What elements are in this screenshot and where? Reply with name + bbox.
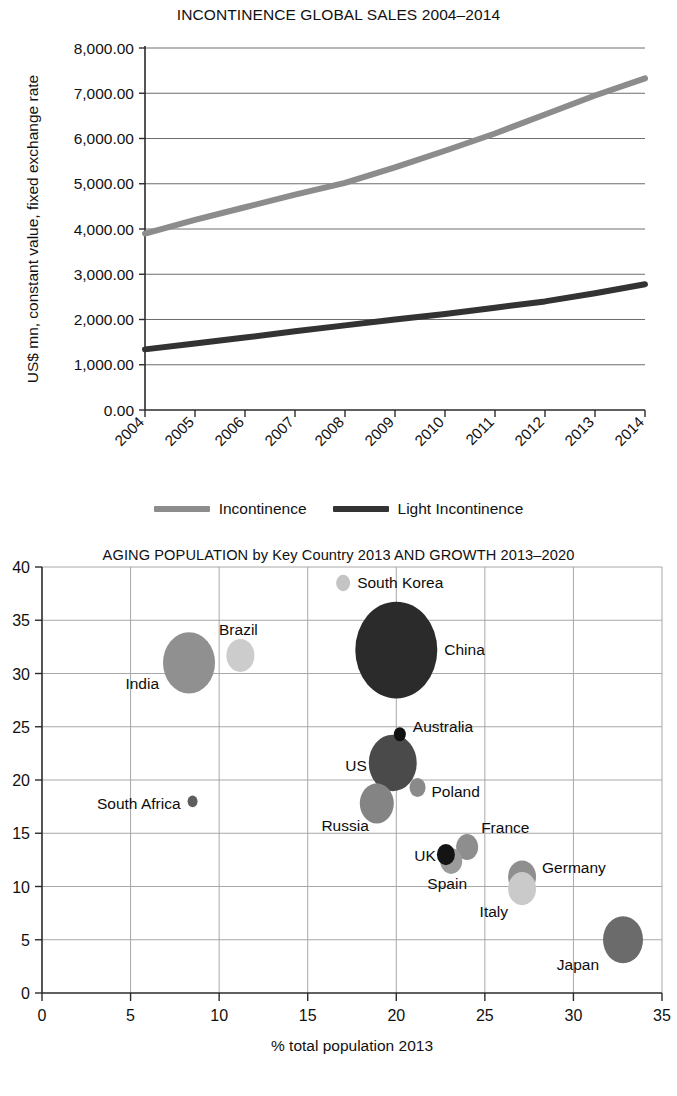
line-series-incontinence [145, 78, 645, 233]
bubble-chart-title: AGING POPULATION by Key Country 2013 AND… [0, 547, 677, 563]
legend-swatch-icon [333, 506, 389, 512]
bubble-label-china: China [444, 641, 485, 658]
line-chart-legend: IncontinenceLight Incontinence [0, 500, 677, 518]
y-tick-label: 15 [12, 825, 30, 842]
x-tick-label: 2012 [511, 413, 547, 449]
bubble-label-italy: Italy [480, 903, 509, 920]
bubble-label-south-korea: South Korea [357, 574, 444, 591]
x-tick-label: 2014 [611, 413, 647, 449]
y-tick-label: 3,000.00 [74, 266, 135, 283]
x-tick-label: 2011 [462, 413, 497, 448]
line-chart-figure: INCONTINENCE GLOBAL SALES 2004–2014 0.00… [0, 0, 677, 545]
bubble-label-south-africa: South Africa [97, 795, 181, 812]
bubble-south-korea[interactable] [336, 575, 350, 592]
bubble-uk[interactable] [437, 844, 455, 865]
y-tick-label: 0.00 [104, 402, 135, 419]
bubble-label-spain: Spain [427, 875, 467, 892]
y-tick-label: 35 [12, 612, 30, 629]
bubble-label-us: US [345, 757, 367, 774]
y-tick-label: 4,000.00 [74, 221, 135, 238]
x-tick-label: 25 [476, 1007, 494, 1024]
y-tick-label: 2,000.00 [74, 311, 135, 328]
bubble-japan[interactable] [603, 916, 643, 963]
legend-swatch-icon [154, 506, 210, 512]
y-tick-label: 20 [12, 772, 30, 789]
bubble-label-russia: Russia [321, 817, 369, 834]
bubble-label-france: France [481, 819, 529, 836]
x-tick-label: 2013 [561, 413, 597, 449]
y-tick-label: 8,000.00 [74, 40, 135, 57]
y-tick-label: 0 [21, 985, 30, 1002]
legend-label: Incontinence [219, 500, 307, 518]
bubble-chart-figure: AGING POPULATION by Key Country 2013 AND… [0, 545, 677, 1096]
bubble-china[interactable] [355, 602, 437, 699]
x-tick-label: 30 [565, 1007, 583, 1024]
y-tick-label: 10 [12, 879, 30, 896]
y-tick-label: 5 [21, 932, 30, 949]
bubble-label-australia: Australia [413, 718, 474, 735]
x-tick-label: 2007 [261, 413, 297, 449]
x-tick-label: 5 [126, 1007, 135, 1024]
bubble-brazil[interactable] [226, 639, 254, 672]
line-chart-plot: 0.001,000.002,000.003,000.004,000.005,00… [0, 0, 677, 490]
line-series-light-incontinence [145, 284, 645, 349]
bubble-chart-plot: 051015202530354005101520253035South Kore… [0, 545, 677, 1090]
x-tick-label: 2006 [211, 413, 247, 449]
x-tick-label: 20 [387, 1007, 405, 1024]
bubble-label-germany: Germany [542, 859, 606, 876]
x-tick-label: 0 [38, 1007, 47, 1024]
x-tick-label: 10 [210, 1007, 228, 1024]
x-tick-label: 2009 [361, 413, 397, 449]
bubble-label-japan: Japan [557, 956, 599, 973]
x-tick-label: 15 [299, 1007, 317, 1024]
bubble-us[interactable] [369, 735, 417, 792]
y-tick-label: 6,000.00 [74, 130, 135, 147]
legend-label: Light Incontinence [398, 500, 524, 518]
bubble-label-poland: Poland [432, 783, 480, 800]
x-tick-label: 2008 [311, 413, 347, 449]
y-tick-label: 30 [12, 666, 30, 683]
x-axis-title: % total population 2013 [271, 1037, 433, 1054]
bubble-label-uk: UK [414, 847, 436, 864]
bubble-label-india: India [125, 675, 159, 692]
bubble-south-africa[interactable] [188, 795, 198, 807]
y-tick-label: 25 [12, 719, 30, 736]
legend-item[interactable]: Incontinence [154, 500, 307, 518]
y-tick-label: 5,000.00 [74, 175, 135, 192]
bubble-india[interactable] [163, 632, 215, 693]
y-axis-title: US$ mn, constant value, fixed exchange r… [24, 75, 41, 383]
x-tick-label: 2010 [411, 413, 447, 449]
y-tick-label: 1,000.00 [74, 356, 135, 373]
x-tick-label: 35 [653, 1007, 671, 1024]
bubble-italy[interactable] [508, 872, 536, 905]
legend-item[interactable]: Light Incontinence [333, 500, 524, 518]
bubble-poland[interactable] [410, 778, 426, 797]
y-tick-label: 7,000.00 [74, 85, 135, 102]
x-tick-label: 2005 [161, 413, 197, 449]
bubble-label-brazil: Brazil [219, 621, 258, 638]
bubble-australia[interactable] [394, 727, 406, 741]
line-chart-title: INCONTINENCE GLOBAL SALES 2004–2014 [0, 6, 677, 24]
